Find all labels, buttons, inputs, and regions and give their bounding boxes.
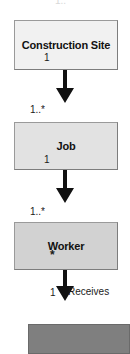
multiplicity-job-source: 1 (44, 154, 50, 165)
association-label-receives: Receives (68, 286, 109, 297)
class-node-partial-bottom[interactable] (28, 324, 130, 354)
multiplicity-receives-target: 1 (50, 287, 56, 298)
class-node-job-label: Job (53, 140, 80, 152)
multiplicity-job-target: 1..* (30, 104, 45, 115)
class-node-construction-site[interactable]: Construction Site (14, 20, 118, 70)
multiplicity-worker-target: 1..* (30, 206, 45, 217)
arrow-down-icon-construction-site-to-job (52, 70, 78, 104)
multiplicity-construction-site-source: 1 (44, 52, 50, 63)
multiplicity-worker-source: * (50, 250, 55, 261)
arrow-down-icon-job-to-worker (52, 170, 78, 204)
multiplicity-label-top-clipped: 1..* (55, 0, 70, 6)
class-node-job[interactable]: Job (14, 122, 118, 170)
class-node-construction-site-label: Construction Site (18, 39, 114, 51)
class-node-worker[interactable]: Worker (14, 222, 118, 270)
